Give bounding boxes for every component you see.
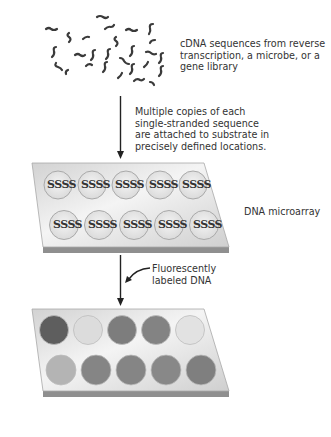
spot — [108, 316, 137, 345]
spot — [186, 355, 216, 385]
spot — [81, 355, 111, 385]
spot — [176, 316, 205, 345]
hybridized-microarray-slide — [0, 0, 331, 437]
spot — [40, 316, 69, 345]
spot — [46, 355, 76, 385]
spot — [151, 355, 181, 385]
spot — [116, 355, 146, 385]
spot — [74, 316, 103, 345]
spot — [142, 316, 171, 345]
